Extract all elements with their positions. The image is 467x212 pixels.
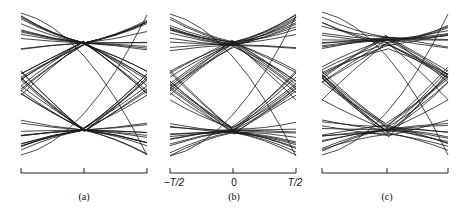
eye-trace bbox=[21, 130, 147, 144]
tick-text: −T/2 bbox=[164, 177, 184, 188]
eye-trace bbox=[21, 22, 147, 43]
eye-trace bbox=[21, 22, 147, 43]
eye-trace bbox=[322, 77, 389, 137]
tick-text: T/2 bbox=[288, 177, 302, 188]
eye-trace bbox=[232, 42, 296, 87]
tick-label-minus-half-T: −T/2 bbox=[164, 177, 184, 188]
eye-trace bbox=[21, 22, 147, 43]
eye-trace bbox=[233, 77, 296, 131]
eye-trace bbox=[322, 44, 388, 70]
eye-trace bbox=[170, 46, 234, 95]
tick-text: 0 bbox=[231, 177, 237, 188]
eye-trace bbox=[170, 71, 233, 130]
tick-label-zero: 0 bbox=[231, 177, 237, 188]
caption-b: (b) bbox=[228, 191, 240, 202]
eye-trace bbox=[234, 47, 296, 81]
eye-trace bbox=[389, 49, 448, 77]
eye-trace bbox=[170, 100, 232, 128]
eye-trace bbox=[322, 129, 448, 151]
eye-trace bbox=[84, 74, 147, 129]
eye-trace bbox=[21, 44, 84, 91]
caption-c: (c) bbox=[381, 191, 392, 202]
tick-label-half-T: T/2 bbox=[288, 177, 302, 188]
eye-trace bbox=[232, 41, 296, 100]
eye-trace bbox=[170, 41, 232, 88]
eye-trace bbox=[170, 19, 296, 43]
eye-trace bbox=[322, 40, 386, 67]
caption-a: (a) bbox=[78, 191, 89, 202]
